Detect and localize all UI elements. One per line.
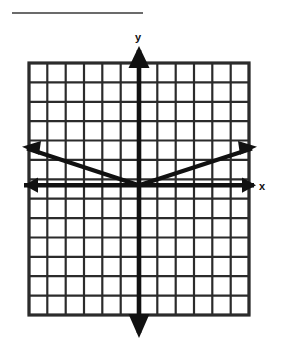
y-axis-bottom-arrowhead [129, 314, 150, 338]
y-axis-top-arrowhead [129, 46, 150, 68]
graph-canvas: x y [0, 0, 281, 350]
y-axis-label: y [135, 31, 142, 43]
x-axis-label: x [259, 180, 266, 192]
coordinate-graph-figure: x y [0, 0, 281, 350]
